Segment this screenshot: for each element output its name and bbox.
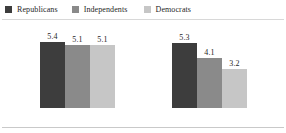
chart-legend: Republicans Independents Democrats — [0, 0, 286, 19]
category-label-feb-2009: Feb 20-22, 2009 — [148, 132, 273, 133]
legend-item-independents: Independents — [71, 0, 128, 19]
bar-rect-independents-feb-2009 — [197, 58, 222, 108]
bar-rect-republicans-feb-2009 — [172, 43, 197, 108]
bar-republicans-feb-2009: 5.3 — [172, 21, 197, 108]
bar-value-republicans-dec-2008: 5.4 — [40, 32, 65, 41]
bar-democrats-feb-2009: 3.2 — [222, 21, 247, 108]
legend-item-republicans: Republicans — [4, 0, 58, 19]
bar-value-independents-feb-2009: 4.1 — [197, 48, 222, 57]
bar-independents-feb-2009: 4.1 — [197, 21, 222, 108]
legend-label-democrats: Democrats — [156, 5, 192, 14]
bar-republicans-dec-2008: 5.4 — [40, 21, 65, 108]
bar-value-independents-dec-2008: 5.1 — [65, 35, 90, 44]
plot-area: 5.4 5.1 5.1 5.3 — [0, 20, 286, 108]
bar-rect-democrats-feb-2009 — [222, 69, 247, 108]
category-label-dec-2008: Dec 12-14, 2008 — [15, 132, 140, 133]
legend-swatch-independents-icon — [71, 5, 80, 14]
bar-rect-republicans-dec-2008 — [40, 42, 65, 108]
bar-group-dec-2008-bars: 5.4 5.1 5.1 — [40, 21, 115, 108]
bar-value-democrats-dec-2008: 5.1 — [90, 35, 115, 44]
legend-item-democrats: Democrats — [143, 0, 192, 19]
legend-label-independents: Independents — [84, 5, 128, 14]
bar-rect-independents-dec-2008 — [65, 45, 90, 108]
legend-swatch-democrats-icon — [143, 5, 152, 14]
bar-rect-democrats-dec-2008 — [90, 45, 115, 108]
legend-swatch-republicans-icon — [4, 5, 13, 14]
bar-value-democrats-feb-2009: 3.2 — [222, 59, 247, 68]
bar-democrats-dec-2008: 5.1 — [90, 21, 115, 108]
x-axis-line — [2, 127, 284, 128]
bar-value-republicans-feb-2009: 5.3 — [172, 33, 197, 42]
bar-chart: Republicans Independents Democrats 5.4 5… — [0, 0, 286, 133]
bar-group-feb-2009-bars: 5.3 4.1 3.2 — [172, 21, 247, 108]
legend-label-republicans: Republicans — [17, 5, 58, 14]
bar-independents-dec-2008: 5.1 — [65, 21, 90, 108]
